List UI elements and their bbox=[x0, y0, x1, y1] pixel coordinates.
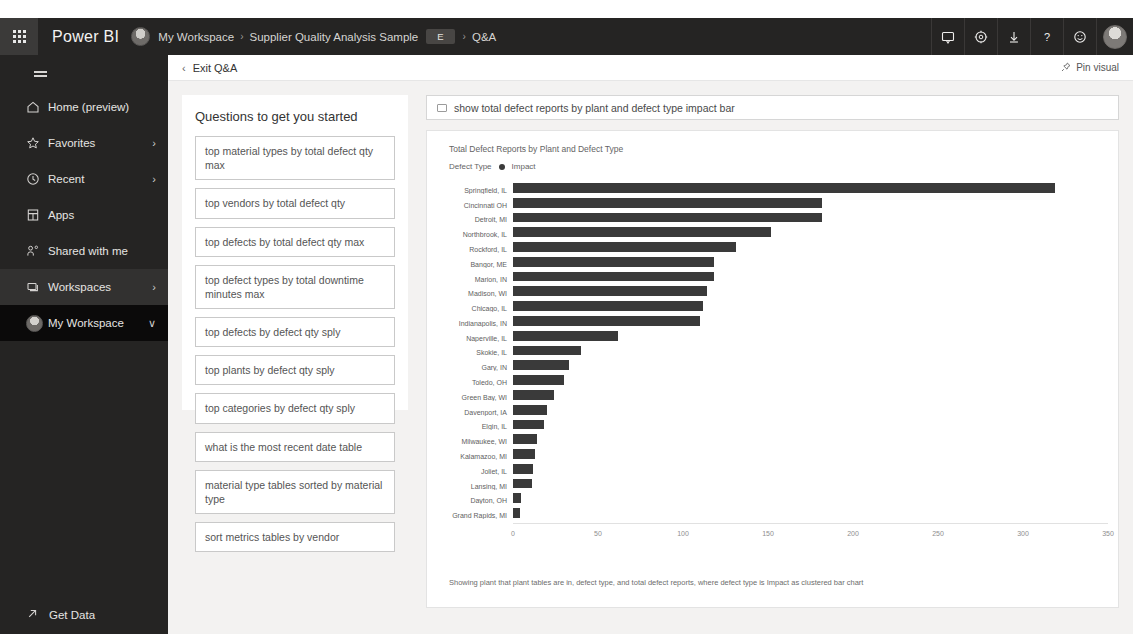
chart-bar[interactable] bbox=[513, 405, 547, 415]
chart-bar-row[interactable]: Chicago, IL bbox=[439, 301, 1108, 316]
suggested-question-item[interactable]: what is the most recent date table bbox=[195, 432, 395, 462]
breadcrumb-badge[interactable]: E bbox=[426, 29, 454, 44]
chart-bar-row[interactable]: Joliet, IL bbox=[439, 464, 1108, 479]
chart-bar[interactable] bbox=[513, 464, 533, 474]
chart-bar-track bbox=[513, 449, 1108, 464]
suggested-question-item[interactable]: top vendors by total defect qty bbox=[195, 188, 395, 218]
chart-bar-row[interactable]: Skokie, IL bbox=[439, 346, 1108, 361]
chart-bar-row[interactable]: Green Bay, WI bbox=[439, 390, 1108, 405]
chart-bar-row[interactable]: Marion, IN bbox=[439, 272, 1108, 287]
x-axis-tick-label: 300 bbox=[1017, 530, 1029, 537]
chart-bar-row[interactable]: Grand Rapids, MI bbox=[439, 508, 1108, 523]
help-icon[interactable]: ? bbox=[1030, 18, 1063, 55]
chart-bar[interactable] bbox=[513, 213, 822, 223]
sidebar-item-my-workspace[interactable]: My Workspace ∨ bbox=[0, 305, 168, 341]
breadcrumb-item-qa[interactable]: Q&A bbox=[472, 31, 496, 43]
chart-bar-row[interactable]: Detroit, MI bbox=[439, 213, 1108, 228]
sidebar-item-recent[interactable]: Recent › bbox=[0, 161, 168, 197]
chart-bar[interactable] bbox=[513, 183, 1055, 193]
chart-bar[interactable] bbox=[513, 493, 521, 503]
chart-bar-row[interactable]: Davenport, IA bbox=[439, 405, 1108, 420]
chart-bar[interactable] bbox=[513, 257, 714, 267]
chart-bar-track bbox=[513, 227, 1108, 242]
chart-category-label: Madison, WI bbox=[439, 290, 513, 297]
chart-category-label: Skokie, IL bbox=[439, 349, 513, 356]
feedback-smiley-icon[interactable] bbox=[1063, 18, 1096, 55]
chart-bar[interactable] bbox=[513, 301, 703, 311]
chart-bar[interactable] bbox=[513, 508, 520, 518]
notifications-icon[interactable] bbox=[931, 18, 964, 55]
pin-visual-button[interactable]: Pin visual bbox=[1061, 62, 1119, 74]
chart-bar-row[interactable]: Lansing, MI bbox=[439, 479, 1108, 494]
user-avatar[interactable] bbox=[1096, 18, 1133, 55]
get-data-button[interactable]: Get Data bbox=[0, 607, 168, 622]
chart-bar-row[interactable]: Indianapolis, IN bbox=[439, 316, 1108, 331]
chart-bar-row[interactable]: Cincinnati OH bbox=[439, 198, 1108, 213]
suggested-question-item[interactable]: top categories by defect qty sply bbox=[195, 393, 395, 423]
suggested-question-item[interactable]: top defect types by total downtime minut… bbox=[195, 265, 395, 309]
chart-bar[interactable] bbox=[513, 434, 537, 444]
x-axis-tick-label: 50 bbox=[594, 530, 602, 537]
suggested-question-item[interactable]: top defects by total defect qty max bbox=[195, 227, 395, 257]
app-launcher-icon[interactable] bbox=[0, 18, 38, 55]
chart-category-label: Elgin, IL bbox=[439, 423, 513, 430]
chart-bar[interactable] bbox=[513, 375, 564, 385]
chart-bar[interactable] bbox=[513, 286, 707, 296]
chart-category-label: Davenport, IA bbox=[439, 409, 513, 416]
chart-bar[interactable] bbox=[513, 346, 581, 356]
suggested-question-item[interactable]: top plants by defect qty sply bbox=[195, 355, 395, 385]
chart-bar-row[interactable]: Toledo, OH bbox=[439, 375, 1108, 390]
chart-bar-row[interactable]: Elgin, IL bbox=[439, 420, 1108, 435]
chart-bar-row[interactable]: Rockford, IL bbox=[439, 242, 1108, 257]
breadcrumb-item-report[interactable]: Supplier Quality Analysis Sample bbox=[250, 31, 419, 43]
exit-qa-button[interactable]: ‹ Exit Q&A bbox=[182, 62, 237, 74]
qa-search-value: show total defect reports by plant and d… bbox=[454, 102, 735, 114]
settings-gear-icon[interactable] bbox=[964, 18, 997, 55]
chart-bar[interactable] bbox=[513, 227, 771, 237]
chart-category-label: Milwaukee, WI bbox=[439, 438, 513, 445]
shared-people-icon bbox=[26, 244, 48, 258]
chart-bar-track bbox=[513, 479, 1108, 494]
sidebar-item-favorites[interactable]: Favorites › bbox=[0, 125, 168, 161]
qa-subheader: ‹ Exit Q&A Pin visual bbox=[168, 55, 1133, 81]
chart-bar-row[interactable]: Kalamazoo, MI bbox=[439, 449, 1108, 464]
sidebar-item-shared-with-me[interactable]: Shared with me bbox=[0, 233, 168, 269]
chart-bar[interactable] bbox=[513, 360, 569, 370]
hamburger-icon[interactable] bbox=[0, 55, 168, 89]
chart-bar[interactable] bbox=[513, 242, 736, 252]
suggested-questions-list: top material types by total defect qty m… bbox=[195, 136, 395, 552]
sidebar-item-workspaces[interactable]: Workspaces › bbox=[0, 269, 168, 305]
breadcrumb-item-workspace[interactable]: My Workspace bbox=[158, 31, 234, 43]
chart-bar-row[interactable]: Dayton, OH bbox=[439, 493, 1108, 508]
qa-result-visual[interactable]: Total Defect Reports by Plant and Defect… bbox=[426, 130, 1119, 608]
chart-bar-row[interactable]: Madison, WI bbox=[439, 286, 1108, 301]
sidebar-item-home[interactable]: Home (preview) bbox=[0, 89, 168, 125]
suggested-question-item[interactable]: sort metrics tables by vendor bbox=[195, 522, 395, 552]
chart-bar[interactable] bbox=[513, 316, 700, 326]
svg-text:?: ? bbox=[1044, 31, 1050, 43]
chart-bar-row[interactable]: Springfield, IL bbox=[439, 183, 1108, 198]
chart-bar-row[interactable]: Milwaukee, WI bbox=[439, 434, 1108, 449]
chart-bar[interactable] bbox=[513, 331, 618, 341]
chart-bar-row[interactable]: Northbrook, IL bbox=[439, 227, 1108, 242]
chart-bar-row[interactable]: Naperville, IL bbox=[439, 331, 1108, 346]
chart-bar-row[interactable]: Bangor, ME bbox=[439, 257, 1108, 272]
suggested-question-item[interactable]: material type tables sorted by material … bbox=[195, 470, 395, 514]
chart-bar[interactable] bbox=[513, 198, 822, 208]
qa-ask-row: show total defect reports by plant and d… bbox=[426, 95, 1119, 120]
download-icon[interactable] bbox=[997, 18, 1030, 55]
x-axis-tick-label: 0 bbox=[511, 530, 515, 537]
chart-bar-row[interactable]: Gary, IN bbox=[439, 360, 1108, 375]
suggested-question-item[interactable]: top material types by total defect qty m… bbox=[195, 136, 395, 180]
chart-bar[interactable] bbox=[513, 449, 535, 459]
suggested-question-item[interactable]: top defects by defect qty sply bbox=[195, 317, 395, 347]
chart-bar[interactable] bbox=[513, 479, 532, 489]
chart-bar[interactable] bbox=[513, 390, 554, 400]
qa-search-input[interactable]: show total defect reports by plant and d… bbox=[426, 95, 1119, 120]
breadcrumb-separator-2: › bbox=[463, 31, 466, 42]
chart-bar[interactable] bbox=[513, 420, 544, 430]
chart-category-label: Green Bay, WI bbox=[439, 394, 513, 401]
sidebar-item-apps[interactable]: Apps bbox=[0, 197, 168, 233]
qa-workspace: Questions to get you started top materia… bbox=[168, 81, 1133, 634]
chart-bar[interactable] bbox=[513, 272, 714, 282]
